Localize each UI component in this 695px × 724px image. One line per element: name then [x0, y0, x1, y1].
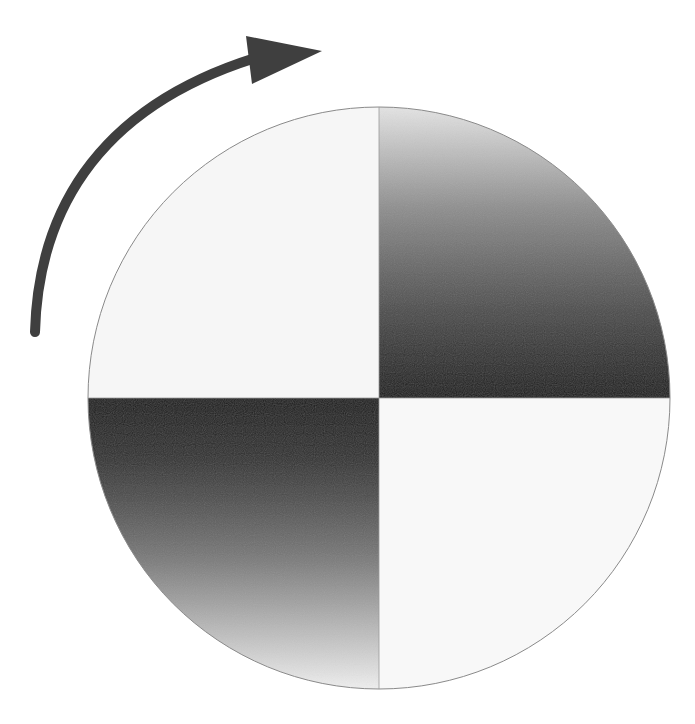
quadrant-top-left [88, 107, 379, 398]
arrow-head [246, 36, 322, 84]
quadrant-bottom-left [88, 398, 379, 689]
rotating-quadrant-diagram [0, 0, 695, 724]
quadrant-bottom-right [379, 398, 670, 689]
quadrant-top-right [379, 107, 670, 398]
quadrant-disk [88, 107, 670, 689]
